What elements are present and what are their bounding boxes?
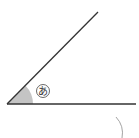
top-ray bbox=[7, 12, 98, 104]
partial-arc bbox=[116, 117, 122, 138]
angle-diagram: あ bbox=[0, 0, 139, 138]
angle-sector bbox=[7, 85, 33, 104]
angle-label: あ bbox=[38, 86, 48, 97]
